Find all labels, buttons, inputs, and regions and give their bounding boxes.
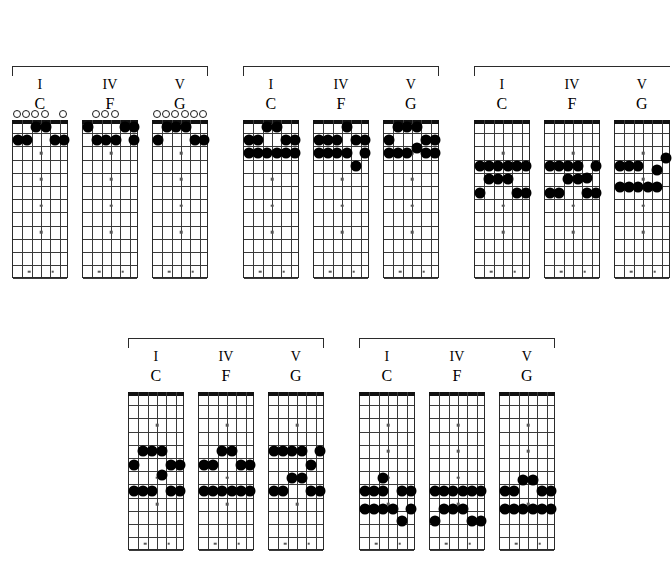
fret-line bbox=[384, 278, 438, 279]
chord-degree-label: IV bbox=[544, 78, 600, 92]
finger-dot bbox=[315, 446, 326, 457]
fret-line bbox=[153, 278, 207, 279]
fret-inlay-marker bbox=[28, 271, 31, 274]
finger-dot bbox=[661, 153, 672, 164]
finger-dot bbox=[245, 459, 256, 470]
open-string-marker bbox=[59, 110, 67, 118]
finger-dot bbox=[360, 134, 371, 145]
chord-degree-label: V bbox=[614, 78, 670, 92]
string-line bbox=[573, 120, 574, 277]
finger-dot bbox=[40, 121, 51, 132]
open-string-marker bbox=[13, 110, 21, 118]
string-line bbox=[32, 120, 33, 277]
open-string-marker bbox=[181, 110, 189, 118]
open-strings-row bbox=[82, 110, 138, 119]
fretboard bbox=[544, 120, 600, 278]
finger-dot bbox=[152, 134, 163, 145]
finger-dot bbox=[341, 148, 352, 159]
open-string-marker bbox=[111, 110, 119, 118]
string-line bbox=[662, 120, 663, 277]
finger-dot bbox=[476, 516, 487, 527]
fret-inlay-marker bbox=[341, 231, 344, 234]
open-string-marker bbox=[153, 110, 161, 118]
finger-dot bbox=[591, 161, 602, 172]
finger-dot bbox=[253, 134, 264, 145]
finger-dot bbox=[406, 486, 417, 497]
fret-line bbox=[314, 278, 368, 279]
chord-name-label: F bbox=[313, 96, 369, 112]
fret-inlay-marker bbox=[502, 231, 505, 234]
string-line bbox=[288, 392, 289, 549]
fret-inlay-marker bbox=[583, 271, 586, 274]
chord-name-label: F bbox=[198, 368, 254, 384]
chord-name-label: G bbox=[614, 96, 670, 112]
finger-dot bbox=[430, 148, 441, 159]
string-line bbox=[138, 392, 139, 549]
finger-dot bbox=[521, 161, 532, 172]
fret-inlay-marker bbox=[468, 543, 471, 546]
finger-dot bbox=[652, 165, 663, 176]
chord-name-label: F bbox=[429, 368, 485, 384]
finger-dot bbox=[59, 134, 70, 145]
fretboard bbox=[268, 392, 324, 550]
fret-inlay-marker bbox=[271, 205, 274, 208]
fret-inlay-marker bbox=[168, 271, 171, 274]
string-line bbox=[393, 120, 394, 277]
fret-inlay-marker bbox=[341, 178, 344, 181]
fret-line bbox=[13, 278, 67, 279]
fret-inlay-marker bbox=[191, 271, 194, 274]
fret-inlay-marker bbox=[296, 503, 299, 506]
chord-degree-label: V bbox=[268, 350, 324, 364]
string-line bbox=[172, 120, 173, 277]
fret-inlay-marker bbox=[411, 231, 414, 234]
finger-dot bbox=[402, 148, 413, 159]
open-strings-row bbox=[12, 110, 68, 119]
fret-inlay-marker bbox=[527, 450, 530, 453]
finger-dot bbox=[315, 486, 326, 497]
fret-inlay-marker bbox=[110, 205, 113, 208]
finger-dot bbox=[296, 446, 307, 457]
fret-inlay-marker bbox=[527, 424, 530, 427]
fret-inlay-marker bbox=[144, 543, 147, 546]
fret-inlay-marker bbox=[642, 152, 645, 155]
open-string-marker bbox=[41, 110, 49, 118]
finger-dot bbox=[175, 459, 186, 470]
fretboard bbox=[313, 120, 369, 278]
open-string-marker bbox=[31, 110, 39, 118]
chord-degree-label: IV bbox=[313, 78, 369, 92]
finger-dot bbox=[82, 121, 93, 132]
finger-dot bbox=[429, 516, 440, 527]
fret-line bbox=[83, 278, 137, 279]
fretboard bbox=[12, 120, 68, 278]
fret-inlay-marker bbox=[513, 271, 516, 274]
string-line bbox=[564, 120, 565, 277]
string-line bbox=[278, 392, 279, 549]
finger-dot bbox=[226, 446, 237, 457]
finger-dot bbox=[430, 134, 441, 145]
fret-inlay-marker bbox=[51, 271, 54, 274]
string-line bbox=[449, 392, 450, 549]
finger-dot bbox=[129, 121, 140, 132]
string-line bbox=[246, 392, 247, 549]
finger-dot bbox=[180, 121, 191, 132]
chord-name-label: G bbox=[499, 368, 555, 384]
chord-degree-label: IV bbox=[198, 350, 254, 364]
fret-inlay-marker bbox=[156, 503, 159, 506]
finger-dot bbox=[387, 504, 398, 515]
string-line bbox=[176, 392, 177, 549]
fret-inlay-marker bbox=[121, 271, 124, 274]
string-line bbox=[458, 392, 459, 549]
group-bracket bbox=[243, 66, 439, 76]
fret-line bbox=[500, 550, 554, 551]
finger-dot bbox=[306, 459, 317, 470]
fret-inlay-marker bbox=[259, 271, 262, 274]
string-line bbox=[554, 120, 555, 277]
fret-inlay-marker bbox=[180, 231, 183, 234]
fret-line bbox=[199, 550, 253, 551]
fret-inlay-marker bbox=[296, 424, 299, 427]
string-line bbox=[522, 120, 523, 277]
string-line bbox=[519, 392, 520, 549]
chord-group-high-neck-voicings: ICIVFVG bbox=[359, 338, 555, 556]
finger-dot bbox=[296, 472, 307, 483]
finger-dot bbox=[383, 134, 394, 145]
